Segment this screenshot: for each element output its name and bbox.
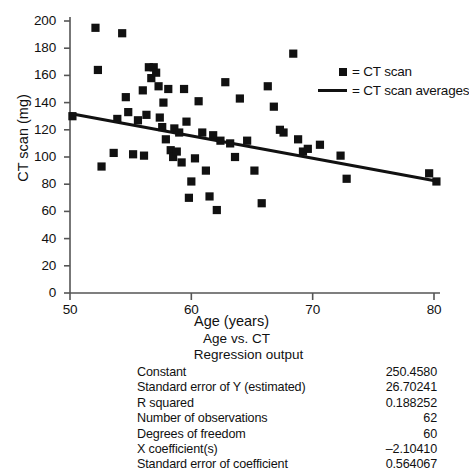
data-point-marker <box>191 154 199 162</box>
legend-label-ct-scan-averages: = CT scan averages <box>352 83 469 98</box>
regression-row-value: 26.70241 <box>347 380 437 395</box>
data-point-marker <box>134 116 142 124</box>
regression-row: R squared0.188252 <box>137 396 437 411</box>
regression-row: Degrees of freedom60 <box>137 427 437 442</box>
data-point-marker <box>185 194 193 202</box>
regression-row-value: 0.188252 <box>347 396 437 411</box>
data-point-marker <box>110 149 118 157</box>
regression-row: Constant250.4580 <box>137 365 437 380</box>
data-point-marker <box>279 128 287 136</box>
regression-row-value: 0.564067 <box>347 457 437 472</box>
regression-row-label: Standard error of coefficient <box>137 457 347 472</box>
chart-plot-area: 020406080100120140160180200 50607080 CT … <box>0 0 463 330</box>
y-axis-title: CT scan (mg) <box>15 58 31 218</box>
data-point-marker <box>250 167 258 175</box>
legend-item-ct-scan-averages: = CT scan averages <box>318 81 463 100</box>
legend-item-ct-scan: = CT scan <box>318 62 463 81</box>
data-point-marker <box>316 141 324 149</box>
data-point-marker <box>304 145 312 153</box>
regression-output-block: Age vs. CT Regression output Constant250… <box>0 331 463 473</box>
regression-row-label: R squared <box>137 396 347 411</box>
regression-row-label: Constant <box>137 365 347 380</box>
data-point-marker <box>202 167 210 175</box>
data-point-marker <box>195 97 203 105</box>
data-point-marker <box>152 69 160 77</box>
data-point-marker <box>231 153 239 161</box>
data-point-marker <box>178 158 186 166</box>
x-axis-title: Age (years) <box>0 313 463 329</box>
regression-table: Constant250.4580Standard error of Y (est… <box>137 365 437 473</box>
legend-square-marker-icon <box>318 68 352 76</box>
data-point-marker <box>97 162 105 170</box>
regression-row-label: Number of observations <box>137 411 347 426</box>
y-tick-label: 20 <box>14 259 56 273</box>
y-tick-label: 0 <box>14 286 56 300</box>
data-point-marker <box>94 66 102 74</box>
data-point-marker <box>264 82 272 90</box>
y-tick-label: 180 <box>14 41 56 55</box>
y-tick-label: 200 <box>14 14 56 28</box>
data-point-marker <box>205 192 213 200</box>
regression-row-value: 62 <box>347 411 437 426</box>
data-point-marker <box>173 147 181 155</box>
data-point-marker <box>336 152 344 160</box>
data-point-marker <box>294 135 302 143</box>
data-point-marker <box>270 103 278 111</box>
data-point-marker <box>159 99 167 107</box>
regression-row: Standard error of Y (estimated)26.70241 <box>137 380 437 395</box>
regression-row-value: 60 <box>347 427 437 442</box>
data-point-marker <box>182 118 190 126</box>
scatter-plot-svg <box>0 0 463 330</box>
regression-row-label: X coefficient(s) <box>137 442 347 457</box>
legend-label-ct-scan: = CT scan <box>352 64 412 79</box>
data-point-marker <box>91 24 99 32</box>
data-point-marker <box>289 50 297 58</box>
data-markers-layer <box>68 24 440 214</box>
regression-row: Standard error of coefficient0.564067 <box>137 457 437 472</box>
regression-row-value: –2.10410 <box>347 442 437 457</box>
regression-subtitle: Regression output <box>0 347 463 363</box>
data-point-marker <box>221 78 229 86</box>
data-point-marker <box>154 82 162 90</box>
axes-layer <box>70 17 440 293</box>
data-point-marker <box>236 94 244 102</box>
data-point-marker <box>122 93 130 101</box>
data-point-marker <box>180 85 188 93</box>
regression-row-value: 250.4580 <box>347 365 437 380</box>
regression-row-label: Standard error of Y (estimated) <box>137 380 347 395</box>
data-point-marker <box>187 177 195 185</box>
data-point-marker <box>140 152 148 160</box>
regression-row-label: Degrees of freedom <box>137 427 347 442</box>
regression-row: X coefficient(s)–2.10410 <box>137 442 437 457</box>
data-point-marker <box>343 175 351 183</box>
chart-legend: = CT scan = CT scan averages <box>318 62 463 100</box>
regression-row: Number of observations62 <box>137 411 437 426</box>
data-point-marker <box>164 85 172 93</box>
data-point-marker <box>162 135 170 143</box>
data-point-marker <box>258 199 266 207</box>
data-point-marker <box>213 206 221 214</box>
data-point-marker <box>139 86 147 94</box>
data-point-marker <box>142 111 150 119</box>
data-point-marker <box>425 169 433 177</box>
data-point-marker <box>124 108 132 116</box>
data-point-marker <box>129 150 137 158</box>
data-point-marker <box>118 29 126 37</box>
y-tick-label: 40 <box>14 232 56 246</box>
legend-line-marker-icon <box>318 89 352 92</box>
data-point-marker <box>198 128 206 136</box>
regression-title: Age vs. CT <box>0 331 463 347</box>
data-point-marker <box>156 113 164 121</box>
data-point-marker <box>243 137 251 145</box>
